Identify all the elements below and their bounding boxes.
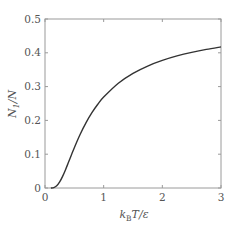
y-tick-label: 0.1 xyxy=(24,148,41,160)
y-tick-label: 0.5 xyxy=(24,13,41,25)
y-tick-label: 0.3 xyxy=(24,80,41,92)
x-tick-label: 1 xyxy=(100,191,107,203)
y-tick-label: 0 xyxy=(34,182,41,194)
y-tick-label: 0.4 xyxy=(24,46,41,58)
y-tick-label: 0.2 xyxy=(24,114,41,126)
line-chart: 012300.10.20.30.40.5 N1/N kBT/ε xyxy=(0,0,231,229)
data-series-line xyxy=(51,47,221,188)
x-tick-label: 0 xyxy=(42,191,49,203)
tick-labels: 012300.10.20.30.40.5 xyxy=(24,13,224,204)
x-tick-label: 3 xyxy=(218,191,225,203)
plot-frame xyxy=(45,19,221,188)
axis-ticks xyxy=(45,19,221,188)
x-axis-label: kBT/ε xyxy=(119,208,148,223)
x-tick-label: 2 xyxy=(159,191,166,203)
y-axis-label: N1/N xyxy=(6,90,21,119)
